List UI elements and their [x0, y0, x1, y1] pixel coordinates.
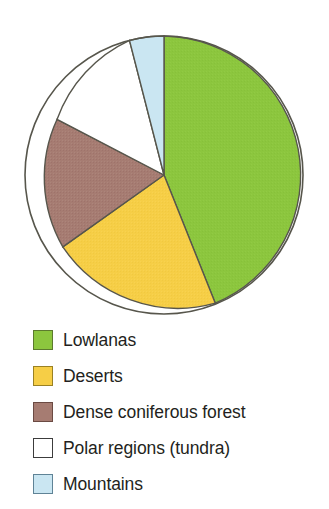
legend-swatch-dense-coniferous-forest	[33, 402, 53, 422]
legend-swatch-deserts	[33, 366, 53, 386]
pie-chart-area	[0, 0, 329, 325]
legend-label-polar-regions: Polar regions (tundra)	[63, 438, 230, 458]
legend-item-lowlanas: Lowlanas	[33, 322, 323, 358]
pie-chart-figure: Lowlanas Deserts Dense coniferous forest…	[0, 0, 329, 509]
legend-label-deserts: Deserts	[63, 366, 123, 386]
legend-label-mountains: Mountains	[63, 474, 143, 494]
legend-label-lowlanas: Lowlanas	[63, 330, 136, 350]
legend-swatch-polar-regions	[33, 438, 53, 458]
legend-item-mountains: Mountains	[33, 466, 323, 502]
legend-label-dense-coniferous-forest: Dense coniferous forest	[63, 402, 246, 422]
legend-item-dense-coniferous-forest: Dense coniferous forest	[33, 394, 323, 430]
legend-swatch-lowlanas	[33, 330, 53, 350]
legend-swatch-mountains	[33, 474, 53, 494]
legend-item-deserts: Deserts	[33, 358, 323, 394]
legend-item-polar-regions: Polar regions (tundra)	[33, 430, 323, 466]
pie-chart-svg	[0, 0, 329, 325]
chart-legend: Lowlanas Deserts Dense coniferous forest…	[33, 322, 323, 502]
